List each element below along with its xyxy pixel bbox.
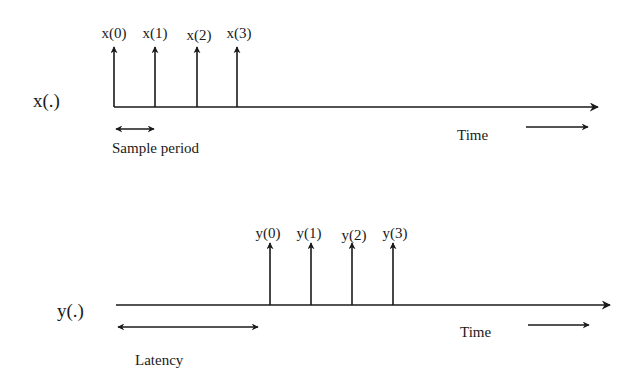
output-signal-group: y(.) y(0) y(1) y(2) y(3) Latency Time: [57, 225, 610, 368]
input-sample-label-1: x(1): [143, 25, 168, 42]
input-signal-group: x(.) x(0) x(1) x(2) x(3) Sample period T…: [33, 25, 598, 156]
input-sample-label-3: x(3): [227, 25, 252, 42]
input-sample-label-0: x(0): [102, 25, 127, 42]
latency-label: Latency: [135, 352, 184, 368]
output-sample-label-1: y(1): [297, 225, 322, 242]
output-sample-label-0: y(0): [256, 225, 281, 242]
sample-period-label: Sample period: [112, 140, 200, 156]
output-sample-label-3: y(3): [383, 225, 408, 242]
output-signal-label: y(.): [57, 300, 84, 322]
timing-diagram: x(.) x(0) x(1) x(2) x(3) Sample period T…: [0, 0, 641, 385]
output-sample-label-2: y(2): [342, 227, 367, 244]
input-signal-label: x(.): [33, 90, 60, 112]
output-time-label: Time: [460, 324, 491, 340]
input-time-label: Time: [457, 127, 488, 143]
input-sample-label-2: x(2): [187, 27, 212, 44]
